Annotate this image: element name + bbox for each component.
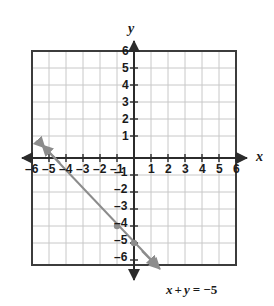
x-tick-label-4: 4: [199, 163, 206, 175]
graph-svg: [0, 0, 274, 306]
equation-annotation: x+y= −5: [166, 283, 217, 296]
x-tick-label-neg2: –2: [93, 163, 106, 175]
y-tick-label-neg5: –5: [114, 234, 127, 246]
y-tick-label-1: 1: [122, 130, 129, 142]
y-tick-label-neg4: –4: [114, 217, 127, 229]
equation-x-variable: x: [166, 282, 173, 297]
equation-plus-sign: +: [175, 282, 182, 297]
x-tick-label-5: 5: [216, 163, 223, 175]
y-axis-label: y: [128, 22, 134, 36]
y-tick-label-neg2: –2: [114, 183, 127, 195]
y-tick-label-4: 4: [122, 79, 129, 91]
y-tick-label-2: 2: [122, 113, 129, 125]
equation-equals-value: = −5: [193, 282, 218, 297]
x-tick-label-neg5: –5: [42, 163, 55, 175]
plot-line-start-arrow: [42, 145, 60, 163]
y-tick-label-neg6: –6: [114, 251, 127, 263]
x-tick-label-neg6: –6: [25, 163, 38, 175]
x-tick-label-neg4: –4: [59, 163, 72, 175]
equation-y-variable: y: [184, 282, 190, 297]
y-tick-label-6: 6: [122, 45, 129, 57]
y-tick-label-neg3: –3: [114, 200, 127, 212]
x-tick-label-2: 2: [165, 163, 172, 175]
y-tick-label-5: 5: [122, 62, 129, 74]
x-tick-label-neg3: –3: [76, 163, 89, 175]
data-point-0-neg5: [131, 240, 137, 246]
x-tick-label-6: 6: [233, 163, 240, 175]
coordinate-plane-figure: –6 –5 –4 –3 –2 –1 1 2 3 4 5 6 6 5 4 3 2 …: [0, 0, 274, 306]
x-tick-label-3: 3: [182, 163, 189, 175]
y-tick-label-3: 3: [122, 96, 129, 108]
x-axis-label: x: [256, 150, 263, 164]
x-tick-label-1: 1: [148, 163, 155, 175]
y-tick-label-neg1: –1: [114, 166, 127, 178]
